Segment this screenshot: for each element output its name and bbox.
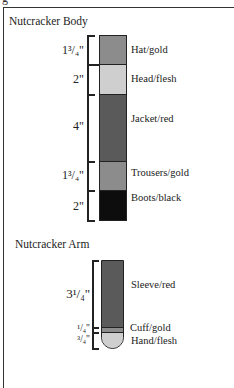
jacket-dimension: 4" <box>73 119 84 134</box>
hat-label: Hat/gold <box>131 44 168 55</box>
boots-segment <box>99 190 127 221</box>
head-dimension: 2" <box>73 72 84 87</box>
arm-bracket-line <box>92 260 94 349</box>
head-label: Head/flesh <box>131 73 176 84</box>
hand-label: Hand/flesh <box>131 335 177 346</box>
sleeve-dimension: 3¹/₄" <box>66 286 90 302</box>
trousers-dimension: 1³/₄" <box>62 168 84 183</box>
sleeve-label: Sleeve/red <box>131 279 175 290</box>
boots-label: Boots/black <box>131 192 181 203</box>
cuff-label: Cuff/gold <box>130 322 171 333</box>
bracket-tick <box>92 327 99 329</box>
arm-bar <box>101 260 124 349</box>
bracket-tick <box>87 94 95 96</box>
cuff-dimension: ¹/₄" <box>77 323 90 333</box>
head-segment <box>99 64 127 95</box>
body-section-title: Nutcracker Body <box>9 15 88 27</box>
hat-segment <box>99 35 127 65</box>
boots-dimension: 2" <box>73 199 84 214</box>
arm-section-title: Nutcracker Arm <box>15 238 89 250</box>
bracket-tick <box>87 64 99 66</box>
body-bracket-line <box>87 35 89 221</box>
bracket-tick <box>87 161 95 163</box>
clipped-heading-fragment: g <box>2 0 8 6</box>
trousers-label: Trousers/gold <box>131 167 189 178</box>
bracket-tick <box>87 190 95 192</box>
hand-dimension: ³/₄" <box>77 334 90 344</box>
bracket-tick <box>87 220 95 222</box>
bracket-tick <box>92 332 99 334</box>
hand-segment <box>102 333 123 349</box>
trousers-segment <box>99 161 127 191</box>
bracket-tick <box>92 260 99 262</box>
bracket-tick <box>87 35 95 37</box>
jacket-segment <box>99 94 127 162</box>
jacket-label: Jacket/red <box>131 113 174 124</box>
hat-dimension: 1³/₄" <box>62 43 84 58</box>
bracket-tick <box>92 348 99 350</box>
sleeve-segment <box>102 261 123 328</box>
